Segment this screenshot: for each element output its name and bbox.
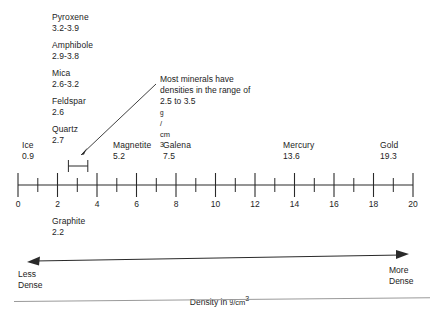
double-headed-arrow: [0, 246, 439, 286]
mineral-value: 2.6-3.2: [52, 79, 79, 90]
mineral-label-quartz: Quartz 2.7: [52, 124, 78, 145]
mineral-value: 2.9-3.8: [52, 51, 93, 62]
axis-tick-label-16: 16: [329, 200, 338, 209]
unit-g-per-cm3: g/cm3: [160, 107, 250, 154]
callout-range-text: 2.5 to 3.5: [160, 96, 250, 107]
range-annotation-callout: Most minerals have densities in the rang…: [160, 74, 250, 154]
callout-line-2: densities in the range of: [160, 85, 250, 96]
axis-tick-label-2: 2: [55, 200, 60, 209]
callout-line-3: 2.5 to 3.5 g/cm3: [160, 96, 250, 154]
mineral-name: Amphibole: [52, 40, 93, 51]
mineral-name: Feldspar: [52, 96, 86, 107]
mineral-name: Graphite: [52, 216, 85, 227]
range-bracket-2p5-to-3p5: [68, 160, 87, 172]
more-dense-line-2: Dense: [389, 276, 414, 287]
mineral-label-feldspar: Feldspar 2.6: [52, 96, 86, 117]
mineral-name: Pyroxene: [52, 12, 89, 23]
less-dense-line-1: Less: [18, 269, 43, 280]
less-dense-line-2: Dense: [18, 280, 43, 291]
callout-line-1: Most minerals have: [160, 74, 250, 85]
density-direction-arrow-zone: Less Dense More Dense Density in g/cm3: [0, 246, 439, 319]
axis-tick-label-18: 18: [369, 200, 378, 209]
mineral-value: 2.7: [52, 135, 78, 146]
axis-tick-label-20: 20: [408, 200, 417, 209]
axis-tick-label-12: 12: [250, 200, 259, 209]
mineral-label-graphite: Graphite 2.2: [52, 216, 85, 237]
mineral-name: Ice: [22, 140, 34, 151]
mineral-value: 2.2: [52, 227, 85, 238]
mineral-value: 2.6: [52, 107, 86, 118]
more-dense-caption: More Dense: [389, 265, 414, 287]
mineral-name: Mica: [52, 68, 79, 79]
density-number-line-figure: Pyroxene 3.2-3.9 Amphibole 2.9-3.8 Mica …: [0, 0, 439, 319]
less-dense-caption: Less Dense: [18, 269, 43, 291]
axis-tick-label-14: 14: [290, 200, 299, 209]
mineral-name: Quartz: [52, 124, 78, 135]
axis-tick-label-6: 6: [134, 200, 139, 209]
mineral-value: 3.2-3.9: [52, 23, 89, 34]
mineral-label-mica: Mica 2.6-3.2: [52, 68, 79, 89]
axis-tick-label-0: 0: [16, 200, 21, 209]
mineral-name: Mercury: [283, 140, 314, 151]
axis-tick-label-10: 10: [211, 200, 220, 209]
axis-tick-label-4: 4: [95, 200, 100, 209]
mineral-name: Gold: [380, 140, 398, 151]
mineral-name: Magnetite: [113, 140, 151, 151]
mineral-label-pyroxene: Pyroxene 3.2-3.9: [52, 12, 89, 33]
more-dense-line-1: More: [389, 265, 414, 276]
axis-tick-label-8: 8: [174, 200, 179, 209]
mineral-label-amphibole: Amphibole 2.9-3.8: [52, 40, 93, 61]
